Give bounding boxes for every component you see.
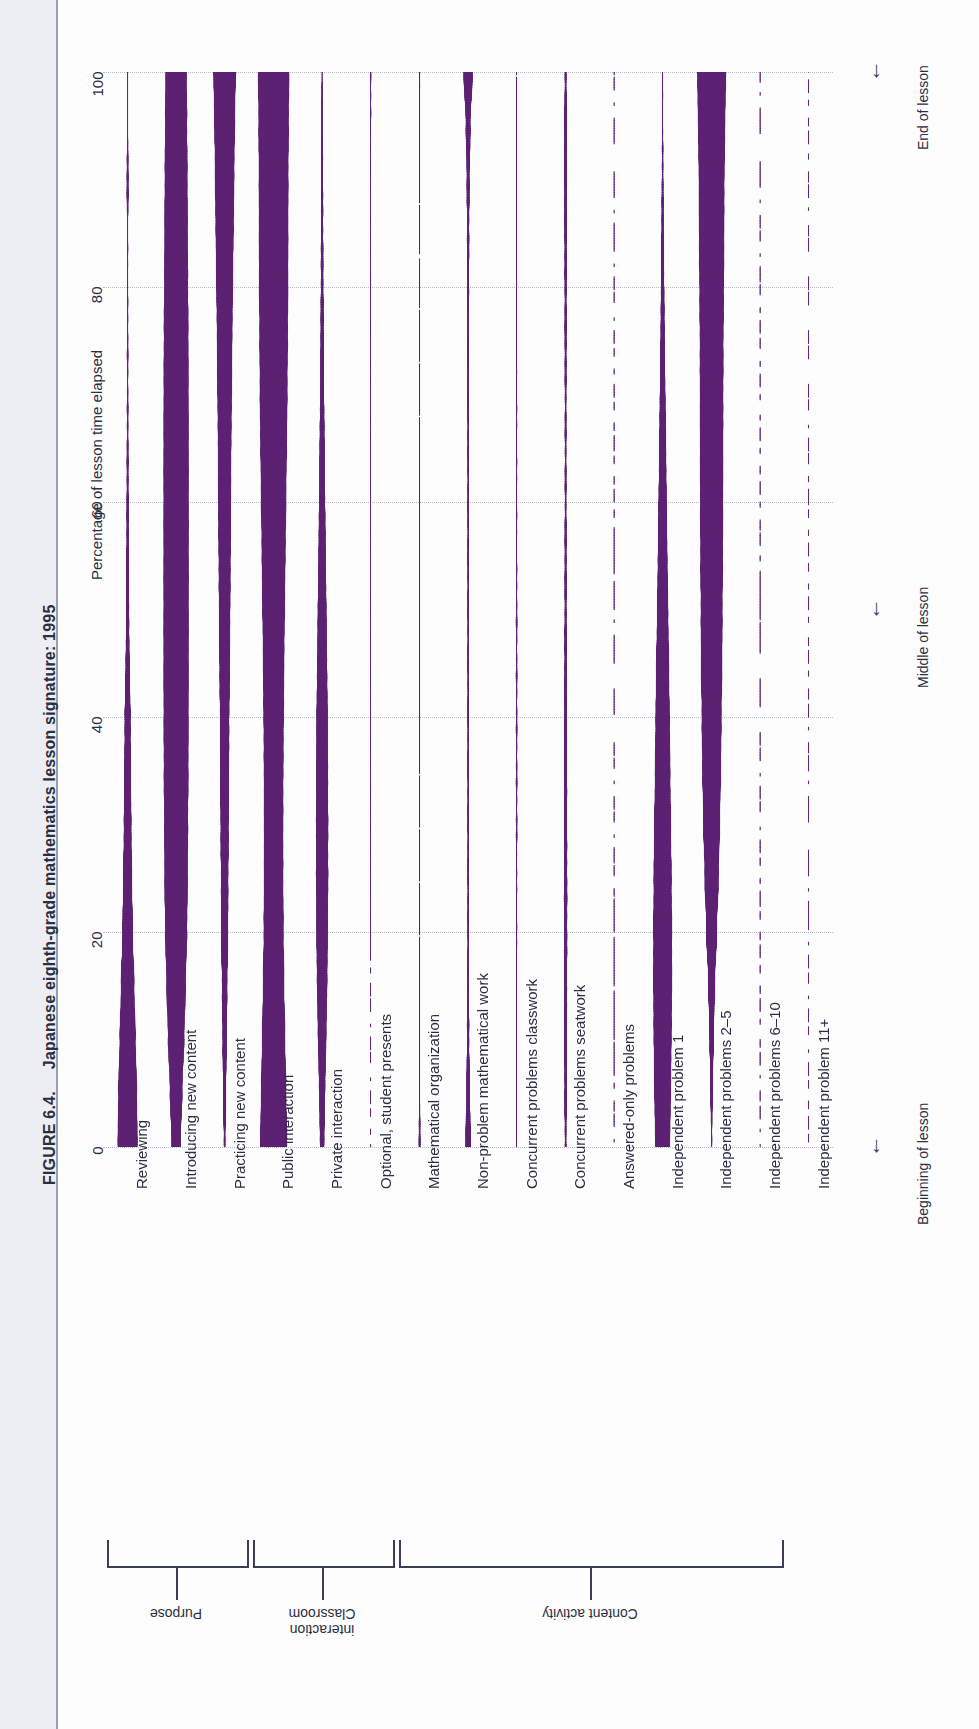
group-label-1: interactionClassroom (232, 1606, 412, 1638)
tick-label: 0 (89, 1147, 106, 1155)
figure-number: FIGURE 6.4. (41, 1091, 59, 1185)
density-band-5 (346, 72, 395, 1147)
density-band-13 (736, 72, 785, 1147)
category-label-0: Reviewing (133, 1120, 150, 1189)
category-label-14: Independent problem 11+ (815, 1019, 832, 1189)
category-label-5: Optional, student presents (377, 1014, 394, 1189)
density-band-10 (590, 72, 639, 1147)
category-label-2: Practicing new content (231, 1038, 248, 1189)
anchor-label-2: End of lesson (915, 65, 931, 150)
density-band-14 (784, 72, 833, 1147)
density-band-6 (395, 72, 444, 1147)
category-label-4: Private interaction (328, 1069, 345, 1189)
density-band-0 (103, 72, 152, 1147)
group-bracket-0 (107, 1540, 249, 1568)
density-band-11 (638, 72, 687, 1147)
density-band-12 (687, 72, 736, 1147)
density-band-4 (298, 72, 347, 1147)
plot-area: 020406080100 (103, 72, 833, 1147)
left-arrow-icon: ← (862, 60, 884, 82)
category-label-8: Concurrent problems classwork (523, 979, 540, 1189)
density-band-1 (152, 72, 201, 1147)
group-bracket-1 (253, 1540, 395, 1568)
group-stem-0 (176, 1566, 178, 1600)
category-label-12: Independent problems 2–5 (717, 1011, 734, 1189)
category-label-11: Independent problem 1 (669, 1035, 686, 1189)
group-bracket-2 (399, 1540, 785, 1568)
density-band-3 (249, 72, 298, 1147)
figure-caption: Japanese eighth-grade mathematics lesson… (41, 605, 59, 1070)
group-stem-2 (590, 1566, 592, 1600)
group-stem-1 (322, 1566, 324, 1600)
category-label-10: Answered-only problems (620, 1024, 637, 1189)
category-label-7: Non-problem mathematical work (474, 973, 491, 1189)
figure-title: FIGURE 6.4. Japanese eighth-grade mathem… (30, 5, 70, 1185)
category-label-9: Concurrent problems seatwork (571, 985, 588, 1189)
density-band-2 (200, 72, 249, 1147)
anchor-label-0: Beginning of lesson (915, 1103, 931, 1225)
group-label-2: Content activity (500, 1606, 680, 1622)
anchor-label-1: Middle of lesson (915, 586, 931, 687)
left-arrow-icon: ← (862, 1135, 884, 1157)
figure-page: FIGURE 6.4. Japanese eighth-grade mathem… (0, 0, 979, 1729)
category-label-3: Public interaction (279, 1075, 296, 1189)
category-label-13: Independent problems 6–10 (766, 1002, 783, 1189)
category-label-6: Mathematical organization (425, 1014, 442, 1189)
left-arrow-icon: ← (862, 598, 884, 620)
category-label-1: Introducing new content (182, 1030, 199, 1189)
